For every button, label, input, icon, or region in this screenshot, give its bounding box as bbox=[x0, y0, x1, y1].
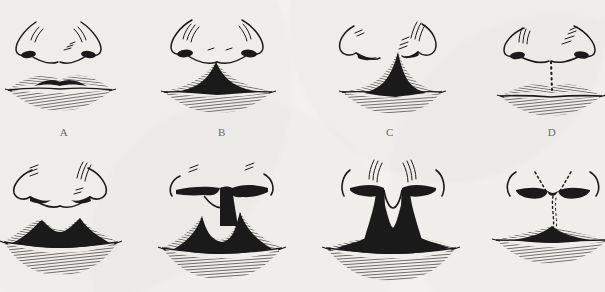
mouth-a bbox=[5, 75, 116, 110]
panel-d: D bbox=[476, 0, 605, 146]
prolabium-g bbox=[384, 190, 402, 208]
nose-c bbox=[340, 22, 436, 59]
panel-a: A bbox=[0, 0, 140, 146]
panel-b: B bbox=[146, 0, 298, 146]
mouth-d bbox=[497, 84, 605, 115]
mouth-b bbox=[161, 62, 276, 112]
panel-h: H bbox=[476, 146, 605, 292]
panel-g: G bbox=[314, 146, 466, 292]
figure-canvas: A bbox=[0, 0, 605, 292]
panel-f: F bbox=[146, 146, 298, 292]
cleft-opening-g bbox=[336, 192, 450, 254]
mouth-e bbox=[0, 218, 122, 274]
nose-e bbox=[14, 162, 107, 207]
nostril-left-e bbox=[30, 196, 51, 204]
panel-label-c: C bbox=[314, 126, 466, 138]
mouth-h bbox=[492, 226, 605, 263]
panel-label-d: D bbox=[476, 126, 605, 138]
lip-segment-left-h bbox=[516, 188, 548, 199]
mouth-g bbox=[322, 192, 460, 280]
nostril-right-c bbox=[403, 51, 419, 58]
panel-e: E bbox=[0, 146, 140, 292]
occult-marker-d bbox=[551, 62, 552, 90]
prolabium-h bbox=[548, 191, 558, 196]
scar-column-h bbox=[552, 196, 556, 230]
panel-label-a: A bbox=[0, 126, 140, 138]
panel-c: C bbox=[314, 0, 466, 146]
mouth-c bbox=[339, 52, 446, 113]
lip-segment-right-f bbox=[231, 185, 268, 197]
nostril-right-e bbox=[71, 196, 91, 204]
lip-segment-right-h bbox=[558, 188, 590, 199]
median-notch-b bbox=[176, 62, 258, 95]
lip-segment-left-f bbox=[176, 187, 220, 196]
scar-lines-h bbox=[535, 172, 571, 191]
panel-label-b: B bbox=[146, 126, 298, 138]
